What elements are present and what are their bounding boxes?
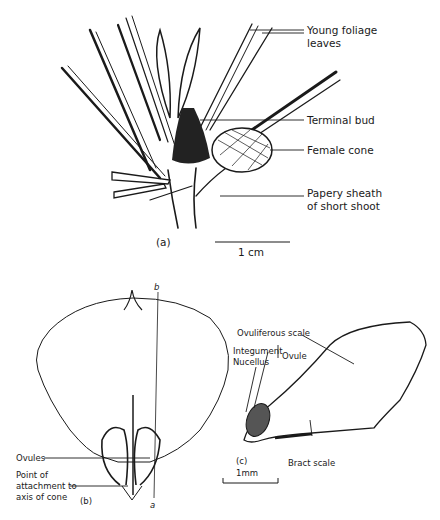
- label-bract-scale: Bract scale: [288, 458, 335, 468]
- label-nucellus: Nucellus: [233, 357, 269, 367]
- caption-b: (b): [80, 496, 92, 506]
- caption-c: (c): [236, 456, 247, 466]
- label-point-of: Point of: [16, 470, 48, 480]
- label-papery-sheath-2: of short shoot: [307, 200, 380, 212]
- label-ovules: Ovules: [16, 453, 45, 463]
- label-young-foliage-2: leaves: [307, 37, 341, 49]
- scale-bar-1mm: [223, 478, 278, 483]
- label-ovuliferous-scale: Ovuliferous scale: [237, 328, 310, 338]
- label-young-foliage: Young foliage: [307, 24, 377, 36]
- panel-c-scale-drawing: [244, 322, 426, 442]
- caption-a: (a): [156, 236, 171, 248]
- panel-b-scale-drawing: [37, 290, 229, 500]
- scale-label-1cm: 1 cm: [238, 246, 264, 258]
- label-integument: Integument: [233, 346, 282, 356]
- scale-label-1mm: 1mm: [236, 468, 258, 478]
- label-ovule: Ovule: [282, 351, 307, 361]
- female-cone-shape: [212, 128, 272, 172]
- axis-label-b: b: [154, 282, 159, 292]
- axis-label-a: a: [150, 500, 155, 510]
- label-papery-sheath: Papery sheath: [307, 187, 382, 199]
- botanical-figure: [0, 0, 440, 520]
- label-attachment-to: attachment to: [16, 481, 77, 491]
- label-female-cone: Female cone: [307, 144, 374, 156]
- label-axis-of-cone: axis of cone: [16, 492, 67, 502]
- label-terminal-bud: Terminal bud: [307, 114, 375, 126]
